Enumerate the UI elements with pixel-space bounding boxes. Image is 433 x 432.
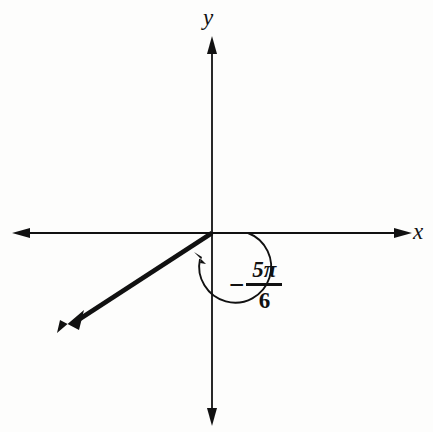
angle-fraction-denominator: 6 (259, 286, 271, 312)
x-axis-left-arrowhead (12, 228, 30, 238)
y-axis-top-arrowhead (207, 36, 217, 54)
angle-diagram: y x − 5π 6 (0, 0, 433, 432)
angle-negative-sign: − (229, 272, 244, 299)
angle-fraction-numerator: 5π (249, 258, 279, 283)
angle-measure-label: − 5π 6 (229, 258, 282, 312)
x-axis-right-arrowhead (394, 228, 412, 238)
terminal-ray-line (72, 233, 212, 324)
coordinate-plane-svg (0, 0, 433, 432)
x-axis-label: x (413, 220, 423, 243)
terminal-ray-arrowhead (57, 310, 84, 333)
y-axis-label: y (203, 6, 213, 29)
y-axis-bottom-arrowhead (207, 408, 217, 426)
angle-fraction: 5π 6 (246, 258, 282, 312)
